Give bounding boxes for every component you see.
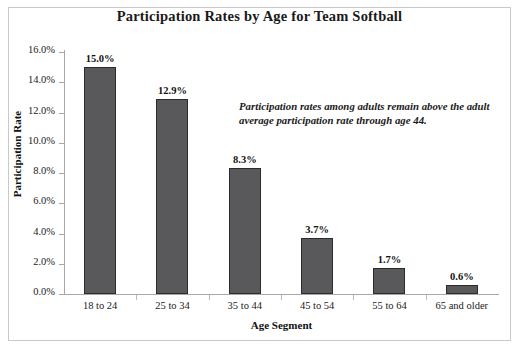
plot-area: 15.0%12.9%8.3%3.7%1.7%0.6% bbox=[64, 52, 498, 294]
chart-annotation: Participation rates among adults remain … bbox=[239, 99, 501, 128]
bar-group: 8.3% bbox=[209, 52, 281, 294]
bar-value-label: 1.7% bbox=[378, 254, 402, 265]
bar-group: 3.7% bbox=[281, 52, 353, 294]
y-axis-title: Participation Rate bbox=[11, 89, 23, 219]
x-axis-category-label: 25 to 34 bbox=[136, 300, 208, 311]
y-axis-tick-label: 14.0% bbox=[28, 74, 55, 85]
y-axis-tick-label: 0.0% bbox=[33, 286, 55, 297]
bar-value-label: 3.7% bbox=[305, 224, 329, 235]
y-axis-tick-mark bbox=[59, 294, 64, 295]
y-axis-tick-label: 16.0% bbox=[28, 44, 55, 55]
bar-group: 12.9% bbox=[136, 52, 208, 294]
bar[interactable] bbox=[373, 268, 405, 294]
bar[interactable] bbox=[156, 99, 188, 294]
x-axis-category-label: 35 to 44 bbox=[209, 300, 281, 311]
y-axis-tick-label: 8.0% bbox=[33, 165, 55, 176]
chart-title: Participation Rates by Age for Team Soft… bbox=[0, 8, 519, 25]
chart-container: Participation Rates by Age for Team Soft… bbox=[0, 0, 519, 355]
x-axis-category-label: 45 to 54 bbox=[281, 300, 353, 311]
x-axis-category-label: 55 to 64 bbox=[353, 300, 425, 311]
y-axis-tick-label: 4.0% bbox=[33, 226, 55, 237]
x-axis-category-label: 65 and older bbox=[426, 300, 498, 311]
bar[interactable] bbox=[229, 168, 261, 294]
y-axis-tick-label: 6.0% bbox=[33, 195, 55, 206]
bar-value-label: 15.0% bbox=[86, 53, 115, 64]
bar-value-label: 0.6% bbox=[450, 271, 474, 282]
y-axis-tick-label: 2.0% bbox=[33, 256, 55, 267]
bar[interactable] bbox=[446, 285, 478, 294]
bar-group: 1.7% bbox=[353, 52, 425, 294]
bar[interactable] bbox=[301, 238, 333, 294]
y-axis-tick-label: 10.0% bbox=[28, 135, 55, 146]
bar[interactable] bbox=[84, 67, 116, 294]
bar-group: 15.0% bbox=[64, 52, 136, 294]
x-axis-title: Age Segment bbox=[64, 319, 499, 331]
y-axis-tick-label: 12.0% bbox=[28, 105, 55, 116]
bar-group: 0.6% bbox=[426, 52, 498, 294]
bar-value-label: 8.3% bbox=[233, 154, 257, 165]
x-axis-category-label: 18 to 24 bbox=[64, 300, 136, 311]
bar-value-label: 12.9% bbox=[158, 85, 187, 96]
